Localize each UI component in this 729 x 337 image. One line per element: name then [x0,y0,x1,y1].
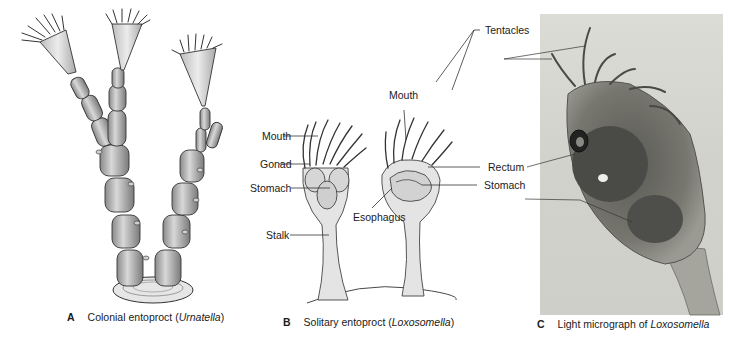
label-stomach-right: Stomach [484,180,525,191]
label-mouth-left: Mouth [262,131,291,142]
micrograph-image [540,14,723,315]
label-tentacles: Tentacles [485,25,529,36]
caption-b: BSolitary entoproct (Loxosomella) [283,316,454,328]
label-stomach-left: Stomach [250,183,291,194]
caption-c: CLight micrograph of Loxosomella [537,318,709,330]
species-name: Loxosomella [392,316,451,328]
panel-letter-b: B [283,316,291,328]
panel-b-solitary-entoproct: Mouth Gonad Stomach Stalk Mouth Esophagu… [0,0,540,337]
label-rectum: Rectum [488,162,524,173]
label-esophagus: Esophagus [353,212,406,223]
label-gonad: Gonad [260,159,292,170]
species-name: Loxosomella [650,318,709,330]
loxosomella-illustration [0,0,540,310]
label-mouth-right: Mouth [389,90,418,101]
panel-letter-c: C [537,318,545,330]
micrograph-specimen [540,14,723,315]
label-stalk: Stalk [266,230,289,241]
